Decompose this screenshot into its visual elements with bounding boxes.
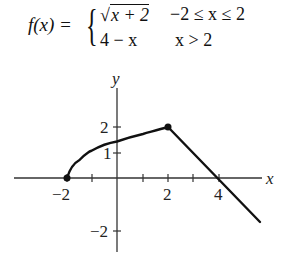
x-tick-label-4: 4 bbox=[214, 185, 223, 204]
case1-condition: −2 ≤ x ≤ 2 bbox=[170, 4, 245, 25]
case2-condition: x > 2 bbox=[175, 30, 212, 51]
x-axis-label: x bbox=[265, 169, 274, 188]
y-tick-label-1: 1 bbox=[103, 144, 112, 163]
function-lhs: f(x) = bbox=[28, 14, 72, 36]
piecewise-formula: f(x) = { √x + 2 −2 ≤ x ≤ 2 4 − x x > 2 bbox=[0, 0, 287, 58]
y-axis-label: y bbox=[110, 69, 120, 88]
closed-point-2-2 bbox=[165, 124, 172, 131]
left-brace: { bbox=[86, 2, 98, 50]
x-tick-label-2: 2 bbox=[163, 185, 172, 204]
x-tick-label-neg2: −2 bbox=[52, 185, 70, 204]
y-tick-label-2: 2 bbox=[100, 118, 109, 137]
function-graph: y x −2 2 4 2 1 −2 bbox=[0, 58, 287, 259]
closed-point-neg2-0 bbox=[64, 175, 71, 182]
case1-expression: √x + 2 bbox=[100, 4, 149, 26]
case2-expression: 4 − x bbox=[100, 30, 137, 51]
linear-branch-line bbox=[168, 127, 260, 222]
y-tick-label-neg2: −2 bbox=[90, 222, 108, 241]
